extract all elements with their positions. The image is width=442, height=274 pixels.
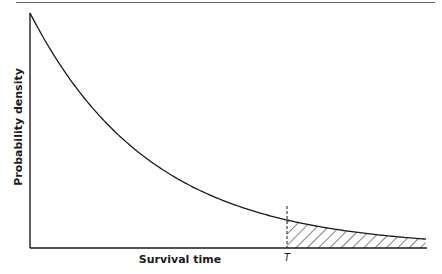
threshold-label: T [284,252,291,263]
density-curve [30,13,426,239]
y-axis-label: Probability density [12,68,25,186]
survival-density-figure: Survival time T Probability density [0,0,442,274]
x-axis-label: Survival time [139,253,221,266]
